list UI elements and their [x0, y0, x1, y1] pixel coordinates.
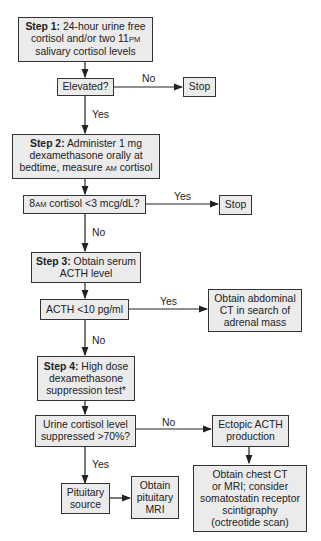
- edge-label-no: No: [92, 227, 105, 238]
- stop-text: Stop: [189, 81, 210, 93]
- step3-label: Step 3:: [36, 256, 71, 267]
- pituitary-text: Pituitary: [67, 487, 105, 499]
- step4-label: Step 4:: [44, 361, 79, 372]
- stop-box: Stop: [183, 77, 216, 97]
- step2-text: Administer 1 mg: [65, 138, 142, 149]
- pituitary-mri-box: Obtain pituitary MRI: [131, 476, 179, 519]
- step2-box: Step 2: Administer 1 mg dexamethasone or…: [12, 134, 160, 179]
- pituitary-mri-text: MRI: [145, 504, 164, 516]
- step1-text: PM: [129, 35, 140, 44]
- pituitary-mri-text: Obtain: [140, 480, 171, 492]
- ectopic-text: Ectopic ACTH: [218, 419, 283, 431]
- urine-text: suppressed >70%?: [41, 431, 130, 443]
- step1-text: salivary cortisol levels: [35, 46, 135, 58]
- edge-label-no: No: [92, 335, 105, 346]
- step2-text: dexamethasone orally at: [29, 150, 142, 162]
- chest-ct-text: or MRI; consider: [212, 481, 288, 493]
- pituitary-text: source: [70, 499, 101, 511]
- cortisol-text: AM: [35, 200, 46, 209]
- cortisol-text: cortisol <3 mcg/dL?: [46, 198, 139, 209]
- cortisol-decision: 8AM cortisol <3 mcg/dL?: [23, 195, 146, 214]
- edge-label-yes: Yes: [160, 296, 177, 307]
- chest-ct-box: Obtain chest CT or MRI; consider somatos…: [193, 465, 307, 532]
- step4-text: suppression test*: [46, 385, 126, 397]
- step4-text: High dose: [78, 361, 128, 372]
- ectopic-text: production: [226, 431, 275, 443]
- step1-text: cortisol and/or two 11: [31, 33, 129, 44]
- edge-label-no: No: [162, 417, 175, 428]
- chest-ct-text: somatostatin receptor: [200, 493, 300, 505]
- abdominal-ct-box: Obtain abdominal CT in search of adrenal…: [208, 289, 302, 332]
- abdominal-ct-text: Obtain abdominal: [214, 293, 295, 305]
- step2-text: bedtime, measure: [19, 162, 105, 173]
- acth-decision: ACTH <10 pg/ml: [40, 299, 129, 320]
- step3-box: Step 3: Obtain serum ACTH level: [31, 252, 141, 283]
- step2-text: AM: [106, 164, 117, 173]
- chest-ct-text: (octreotide scan): [211, 517, 288, 529]
- step2-text: cortisol: [117, 162, 153, 173]
- elevated-decision: Elevated?: [57, 78, 114, 96]
- step4-box: Step 4: High dose dexamethasone suppress…: [37, 356, 135, 401]
- step2-label: Step 2:: [30, 138, 65, 149]
- ectopic-box: Ectopic ACTH production: [212, 415, 289, 447]
- step1-label: Step 1:: [25, 21, 60, 32]
- edge-label-yes: Yes: [174, 191, 191, 202]
- chest-ct-text: scintigraphy: [222, 505, 277, 517]
- stop-text: Stop: [225, 199, 246, 211]
- step1-box: Step 1: 24-hour urine free cortisol and/…: [18, 17, 153, 62]
- pituitary-box: Pituitary source: [61, 483, 110, 514]
- edge-label-yes: Yes: [92, 459, 109, 470]
- chest-ct-text: Obtain chest CT: [212, 469, 287, 481]
- elevated-text: Elevated?: [62, 81, 108, 93]
- abdominal-ct-text: adrenal mass: [224, 317, 286, 329]
- step4-text: dexamethasone: [49, 373, 123, 385]
- edge-label-yes: Yes: [92, 109, 109, 120]
- urine-decision: Urine cortisol level suppressed >70%?: [35, 415, 136, 447]
- stop-box: Stop: [219, 195, 252, 215]
- abdominal-ct-text: CT in search of: [220, 305, 290, 317]
- acth-text: ACTH <10 pg/ml: [46, 304, 123, 316]
- urine-text: Urine cortisol level: [43, 419, 128, 431]
- step1-text: 24-hour urine free: [60, 21, 145, 32]
- step3-text: Obtain serum: [71, 256, 136, 267]
- step3-text: ACTH level: [60, 268, 113, 280]
- edge-label-no: No: [142, 73, 155, 84]
- pituitary-mri-text: pituitary: [137, 492, 173, 504]
